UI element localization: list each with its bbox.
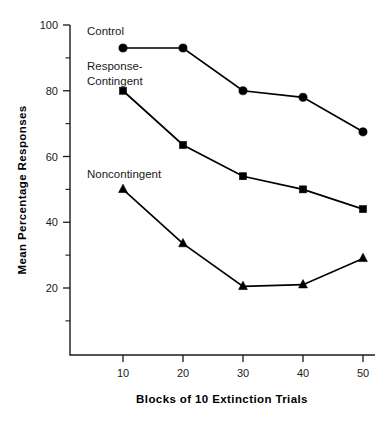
x-axis-title: Blocks of 10 Extinction Trials <box>136 393 308 405</box>
y-axis-title: Mean Percentage Responses <box>16 105 28 274</box>
y-tick-label-20: 20 <box>46 282 58 294</box>
y-tick-label-100: 100 <box>40 19 58 31</box>
x-tick-label-40: 40 <box>297 367 309 379</box>
x-tick-label-30: 30 <box>237 367 249 379</box>
line-chart: 100 80 60 40 20 10 20 30 40 50 Mean Perc… <box>0 0 384 424</box>
x-tick-label-10: 10 <box>117 367 129 379</box>
x-axis-ticks <box>123 355 363 362</box>
x-tick-label-50: 50 <box>357 367 369 379</box>
series-markers-response-contingent <box>120 87 367 212</box>
series-markers-control <box>119 44 367 136</box>
series-line-noncontingent <box>123 189 363 286</box>
y-tick-label-80: 80 <box>46 85 58 97</box>
y-tick-label-60: 60 <box>46 151 58 163</box>
annotation-control: Control <box>87 25 124 37</box>
chart-figure: 100 80 60 40 20 10 20 30 40 50 Mean Perc… <box>0 0 384 424</box>
annotation-response: Response- <box>87 60 143 72</box>
series-response-contingent <box>120 87 367 212</box>
y-axis-major-ticks <box>63 25 70 288</box>
y-tick-label-40: 40 <box>46 216 58 228</box>
series-line-response-contingent <box>123 91 363 209</box>
x-tick-label-20: 20 <box>177 367 189 379</box>
annotation-contingent: Contingent <box>87 75 143 87</box>
annotation-noncontingent: Noncontingent <box>87 168 162 180</box>
series-control <box>119 44 367 136</box>
series-noncontingent <box>119 184 368 289</box>
